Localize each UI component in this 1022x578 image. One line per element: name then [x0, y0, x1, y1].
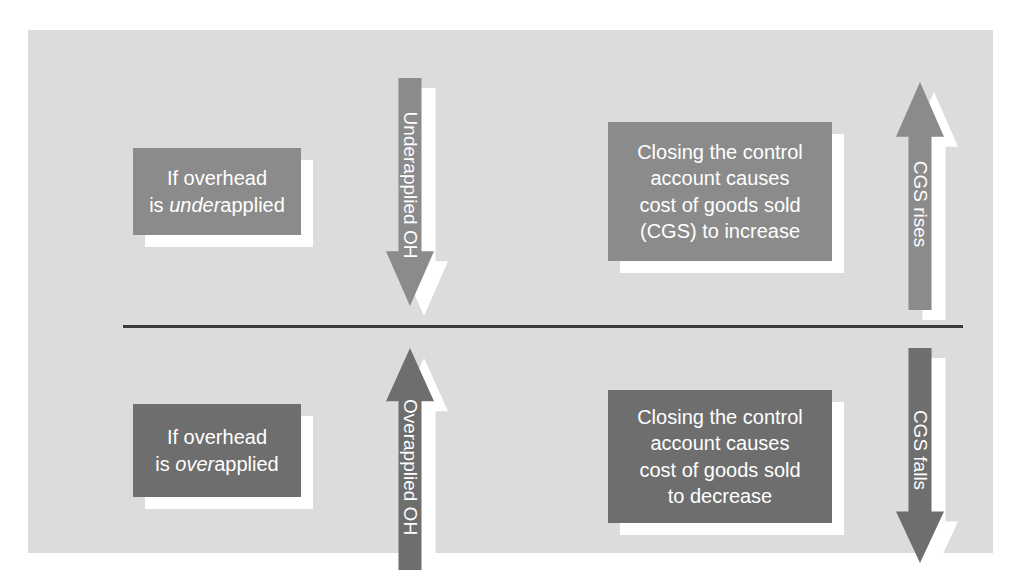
condition-box-underapplied-line1: If overhead [149, 165, 285, 191]
condition-box-underapplied: If overhead is underapplied [133, 148, 301, 235]
condition-box-overapplied: If overhead is overapplied [133, 404, 301, 497]
condition-box-overapplied-line1: If overhead [155, 424, 278, 450]
condition-line2-suffix: applied [220, 194, 285, 216]
condition-line2-prefix: is [149, 194, 169, 216]
result-box-cgs-increase-body: Closing the control account causes cost … [608, 122, 832, 261]
condition-line2-emphasis: over [175, 453, 214, 475]
result-box-cgs-increase: Closing the control account causes cost … [608, 122, 832, 261]
result-box-increase-line3: cost of goods sold [637, 192, 803, 218]
condition-box-underapplied-line2: is underapplied [149, 192, 285, 218]
condition-line2-prefix: is [155, 453, 175, 475]
result-box-decrease-line4: to decrease [637, 483, 803, 509]
result-box-increase-line2: account causes [637, 165, 803, 191]
diagram-root: If overhead is underapplied Underapplied… [0, 0, 1022, 578]
arrow-overapplied-oh: Overapplied OH [386, 348, 434, 570]
arrow-cgs-falls: CGS falls [896, 348, 944, 563]
row-divider [123, 325, 963, 328]
result-box-decrease-line1: Closing the control [637, 404, 803, 430]
arrow-underapplied-oh: Underapplied OH [386, 78, 434, 306]
arrow-cgs-rises: CGS rises [896, 82, 944, 310]
result-box-cgs-decrease-body: Closing the control account causes cost … [608, 390, 832, 523]
result-box-decrease-line3: cost of goods sold [637, 457, 803, 483]
condition-line2-emphasis: under [169, 194, 220, 216]
condition-box-underapplied-body: If overhead is underapplied [133, 148, 301, 235]
result-box-cgs-decrease: Closing the control account causes cost … [608, 390, 832, 523]
slide-panel: If overhead is underapplied Underapplied… [28, 30, 993, 553]
result-box-increase-line4: (CGS) to increase [637, 218, 803, 244]
result-box-increase-line1: Closing the control [637, 139, 803, 165]
condition-line2-suffix: applied [214, 453, 279, 475]
condition-box-overapplied-line2: is overapplied [155, 451, 278, 477]
result-box-decrease-line2: account causes [637, 430, 803, 456]
condition-box-overapplied-body: If overhead is overapplied [133, 404, 301, 497]
